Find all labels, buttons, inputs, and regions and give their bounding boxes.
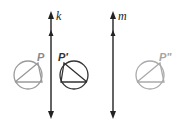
figure-p — [14, 61, 42, 89]
figure-p-prime-label: P' — [58, 51, 68, 63]
direction-tick-icon — [49, 30, 54, 36]
direction-tick-icon — [111, 30, 116, 36]
line-k — [48, 11, 54, 119]
line-m-label: m — [118, 9, 127, 23]
arrow-down-icon — [48, 111, 54, 119]
line-k-label: k — [56, 9, 62, 23]
figure-p-prime — [60, 61, 88, 89]
figure-p-label: P — [37, 51, 45, 63]
line-m — [110, 11, 116, 119]
arrow-up-icon — [48, 11, 54, 19]
figure-p-double-prime-label: P" — [159, 51, 172, 63]
arrow-down-icon — [110, 111, 116, 119]
diagram-canvas: k m P P' P" — [0, 0, 178, 128]
figure-p-double-prime — [136, 61, 164, 89]
arrow-up-icon — [110, 11, 116, 19]
